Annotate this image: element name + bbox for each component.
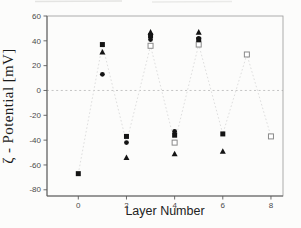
marker-filled-circle xyxy=(100,72,105,77)
zeta-potential-chart: 6040200-20-40-60-8002468 ζ - Potential [… xyxy=(0,0,301,228)
marker-filled-triangle xyxy=(99,49,105,55)
marker-filled-square xyxy=(100,42,105,47)
y-tick-label: 40 xyxy=(32,37,41,46)
x-tick-label: 8 xyxy=(269,201,274,210)
marker-filled-triangle xyxy=(172,151,178,157)
y-tick-label: 20 xyxy=(32,61,41,70)
x-axis-label: Layer Number xyxy=(125,204,204,218)
y-tick-label: -20 xyxy=(29,111,41,120)
marker-filled-square xyxy=(76,171,81,176)
y-tick-label: -60 xyxy=(29,161,41,170)
marker-open-square xyxy=(148,43,153,48)
x-tick-label: 6 xyxy=(221,201,226,210)
marker-filled-triangle xyxy=(123,154,129,160)
axes-frame xyxy=(47,16,283,196)
marker-filled-circle xyxy=(172,129,177,134)
marker-filled-triangle xyxy=(220,148,226,154)
marker-open-square xyxy=(196,42,201,47)
marker-filled-triangle xyxy=(196,29,202,35)
y-tick-label: 60 xyxy=(32,12,41,21)
y-tick-label: -80 xyxy=(29,185,41,194)
plot-frame xyxy=(47,16,283,196)
data-markers xyxy=(76,29,274,176)
x-tick-label: 0 xyxy=(76,201,81,210)
marker-filled-square xyxy=(220,131,225,136)
scan-artifact-line xyxy=(35,1,122,2)
marker-filled-circle xyxy=(124,140,129,145)
marker-filled-circle xyxy=(148,37,153,42)
marker-filled-square xyxy=(124,134,129,139)
marker-filled-triangle xyxy=(148,29,154,35)
y-axis-label: ζ - Potential [mV] xyxy=(0,48,16,163)
marker-open-square xyxy=(172,140,177,145)
y-tick-label: -40 xyxy=(29,136,41,145)
zeta-potential-figure: 6040200-20-40-60-8002468 ζ - Potential [… xyxy=(0,0,301,228)
marker-open-square xyxy=(244,52,249,57)
marker-open-square xyxy=(268,134,273,139)
y-tick-label: 0 xyxy=(37,86,42,95)
scan-artifact-line xyxy=(152,2,232,3)
marker-filled-circle xyxy=(196,36,201,41)
